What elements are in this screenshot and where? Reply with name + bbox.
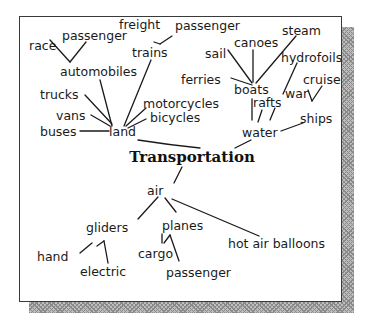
- node-cruise: cruise: [303, 72, 341, 87]
- node-vans: vans: [56, 108, 86, 123]
- node-land: land: [109, 124, 136, 139]
- node-motorcycles: motorcycles: [143, 96, 219, 111]
- node-race: race: [29, 38, 57, 53]
- node-hydrofoils: hydrofoils: [281, 50, 342, 65]
- node-cargo: cargo: [138, 246, 173, 261]
- node-transportation: Transportation: [129, 148, 255, 166]
- node-war: war: [285, 86, 309, 101]
- node-electric: electric: [80, 264, 126, 279]
- node-gliders: gliders: [86, 220, 128, 235]
- node-ships: ships: [300, 111, 332, 126]
- node-hand: hand: [37, 249, 68, 264]
- node-passenger-auto: passenger: [62, 28, 128, 43]
- node-rafts: rafts: [253, 95, 281, 110]
- node-passenger-train: passenger: [175, 18, 241, 33]
- node-bicycles: bicycles: [150, 110, 200, 125]
- node-canoes: canoes: [234, 35, 278, 50]
- node-trucks: trucks: [40, 87, 79, 102]
- node-sail: sail: [205, 46, 226, 61]
- node-water: water: [242, 125, 278, 140]
- node-passenger-plane: passenger: [166, 265, 232, 280]
- node-buses: buses: [40, 124, 77, 139]
- node-air: air: [147, 183, 164, 198]
- node-steam: steam: [282, 23, 321, 38]
- node-ferries: ferries: [181, 72, 221, 87]
- node-freight: freight: [119, 17, 160, 32]
- node-hot-air-balloons: hot air balloons: [228, 236, 325, 251]
- node-planes: planes: [162, 218, 203, 233]
- concept-map: Transportation race passenger freight pa…: [0, 0, 365, 320]
- node-trains: trains: [132, 45, 168, 60]
- node-automobiles: automobiles: [60, 64, 137, 79]
